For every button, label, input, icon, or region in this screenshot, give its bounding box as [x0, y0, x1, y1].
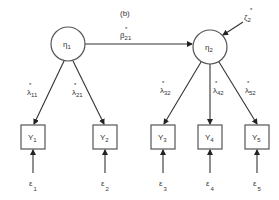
error-label-3: ε3 [159, 179, 168, 192]
svg-text:λ52: λ52 [245, 86, 256, 96]
loading-label-11: λ11 * [27, 82, 38, 98]
observed-y3: Y3 [151, 125, 175, 149]
error-label-5: ε5 [253, 179, 262, 192]
svg-text:*: * [125, 26, 128, 32]
svg-text:*: * [29, 82, 32, 88]
error-label-4: ε4 [206, 179, 215, 192]
svg-text:λ21: λ21 [72, 88, 83, 98]
observed-y2: Y2 [93, 125, 117, 149]
svg-text:β21: β21 [120, 31, 132, 41]
zeta-arrow [223, 22, 243, 35]
beta-label: β21 * [120, 26, 132, 41]
svg-text:ζ2: ζ2 [244, 13, 252, 23]
observed-y5: Y5 [245, 125, 269, 149]
loading-label-32: λ32 * [160, 80, 171, 96]
error-label-1: ε1 [29, 179, 38, 192]
zeta-label: ζ2 * [244, 7, 253, 23]
svg-text:*: * [74, 82, 77, 88]
latent-eta1: η1 [51, 27, 85, 61]
loading-arrow-y1 [34, 61, 64, 124]
observed-y1: Y1 [21, 125, 45, 149]
svg-text:λ11: λ11 [27, 88, 38, 98]
panel-label: (b) [120, 9, 130, 18]
latent-eta2: η2 [193, 30, 227, 64]
svg-text:λ42: λ42 [213, 86, 224, 96]
svg-text:λ32: λ32 [160, 86, 171, 96]
loading-label-21: λ21 * [72, 82, 83, 98]
svg-text:*: * [162, 80, 165, 86]
observed-y4: Y4 [198, 125, 222, 149]
loading-label-52: λ52 * [245, 80, 256, 96]
svg-text:*: * [215, 80, 218, 86]
svg-text:*: * [250, 7, 253, 13]
loading-label-42: λ42 * [213, 80, 224, 96]
error-label-2: ε2 [101, 179, 110, 192]
svg-text:*: * [247, 80, 250, 86]
path-diagram: (b) β21 * ζ2 * η1 η2 λ11 * λ21 * λ32 * λ… [0, 0, 279, 200]
